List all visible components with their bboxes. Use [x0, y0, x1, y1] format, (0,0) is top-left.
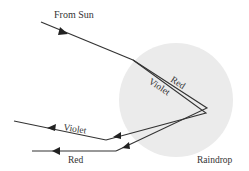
red-exit-arrow-icon: [52, 147, 60, 155]
exit-violet-label: Violet: [63, 122, 88, 136]
raindrop-circle: [119, 43, 233, 157]
from-sun-label: From Sun: [54, 9, 94, 20]
rainbow-diagram: From Sun Red Violet Violet Red Raindrop: [0, 0, 249, 171]
incoming-sun-ray: [41, 22, 133, 60]
red-inside-arrow-icon: [122, 142, 130, 149]
exit-red-label: Red: [68, 155, 84, 165]
violet-exit-arrow-icon: [47, 124, 56, 131]
raindrop-label: Raindrop: [197, 155, 233, 165]
incoming-arrow-icon: [58, 27, 68, 35]
violet-exit-ray: [14, 121, 106, 140]
